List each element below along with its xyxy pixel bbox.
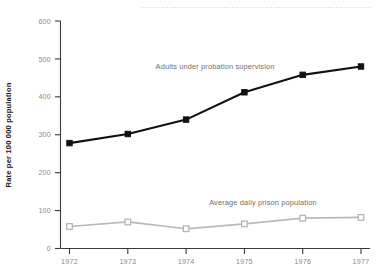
data-point-marker: [125, 219, 131, 225]
x-axis-tick-label: 1977: [353, 257, 370, 266]
data-point-marker: [183, 117, 188, 122]
data-point-marker: [67, 140, 72, 145]
x-axis-tick-label: 1974: [178, 257, 195, 266]
data-point-marker: [242, 221, 248, 227]
x-axis-tick-label: 1976: [294, 257, 311, 266]
chart-container: 0100200300400500600 19721973197419751976…: [0, 0, 376, 273]
data-point-marker: [125, 131, 130, 136]
data-point-marker: [358, 215, 364, 221]
data-point-marker: [67, 224, 73, 230]
x-axis-tick-label: 1973: [119, 257, 136, 266]
y-axis-tick-label: 600: [38, 17, 51, 26]
y-axis-tick-label: 500: [38, 55, 51, 64]
series-label-average-daily-prison-population: Average daily prison population: [209, 198, 317, 207]
line-chart: 0100200300400500600 19721973197419751976…: [0, 0, 376, 273]
y-axis-tick-label: 100: [38, 206, 51, 215]
data-point-marker: [183, 226, 189, 232]
y-axis-title: Rate per 100 000 population: [4, 82, 13, 187]
y-axis-tick-label: 200: [38, 168, 51, 177]
data-point-marker: [300, 215, 306, 221]
y-axis-tick-label: 400: [38, 92, 51, 101]
x-axis-tick-label: 1975: [236, 257, 253, 266]
x-axis-tick-label: 1972: [61, 257, 78, 266]
data-point-marker: [242, 90, 247, 95]
series-label-adults-under-probation-supervision: Adults under probation supervision: [156, 62, 275, 71]
y-axis-tick-label: 300: [38, 130, 51, 139]
data-point-marker: [300, 72, 305, 77]
data-point-marker: [358, 64, 363, 69]
y-axis-tick-label: 0: [47, 244, 51, 253]
